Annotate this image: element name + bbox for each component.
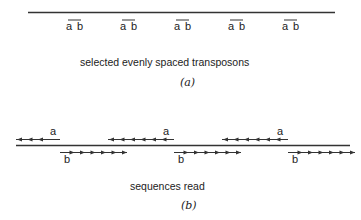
- arrow-right-icon: [236, 151, 241, 155]
- arrow-left-icon: [17, 138, 22, 142]
- transposon-end-a: a: [174, 20, 181, 32]
- arrow-left-icon: [276, 138, 281, 142]
- arrow-right-icon: [122, 151, 127, 155]
- read-b: b: [174, 151, 241, 166]
- read-label: a: [163, 125, 170, 137]
- arrow-left-icon: [120, 138, 125, 142]
- transposon-end-a: a: [228, 20, 235, 32]
- transposon-end-b: b: [77, 20, 83, 32]
- diagram-canvas: ababababab selected evenly spaced transp…: [0, 0, 361, 220]
- transposon-end-a: a: [120, 20, 127, 32]
- arrow-left-icon: [38, 138, 43, 142]
- read-label: b: [178, 153, 184, 165]
- arrow-right-icon: [70, 151, 75, 155]
- transposon-end-b: b: [131, 20, 137, 32]
- panel-label-b: (b): [181, 199, 197, 212]
- arrow-left-icon: [223, 138, 228, 142]
- transposon-end-b: b: [185, 20, 191, 32]
- read-b: b: [60, 151, 127, 166]
- read-a: a: [16, 125, 60, 142]
- panel-label-a: (a): [180, 76, 195, 89]
- arrow-left-icon: [28, 138, 33, 142]
- transposon-label: ab: [174, 20, 191, 32]
- transposon-label: ab: [66, 20, 83, 32]
- arrow-left-icon: [265, 138, 270, 142]
- arrow-right-icon: [350, 151, 355, 155]
- arrow-left-icon: [109, 138, 114, 142]
- transposon-end-a: a: [66, 20, 73, 32]
- read-label: a: [277, 125, 284, 137]
- panel-a: ababababab selected evenly spaced transp…: [28, 13, 335, 90]
- read-a: a: [222, 125, 288, 142]
- arrow-right-icon: [194, 151, 199, 155]
- transposon-end-a: a: [282, 20, 289, 32]
- panel-b: ababab sequences read (b): [16, 125, 355, 212]
- transposon-end-b: b: [239, 20, 245, 32]
- arrow-right-icon: [319, 151, 324, 155]
- transposon-label: ab: [282, 20, 299, 32]
- read-b: b: [288, 151, 355, 166]
- transposon-label: ab: [120, 20, 137, 32]
- arrow-left-icon: [234, 138, 239, 142]
- read-label: a: [50, 125, 57, 137]
- arrow-right-icon: [205, 151, 210, 155]
- arrow-right-icon: [80, 151, 85, 155]
- arrow-left-icon: [151, 138, 156, 142]
- arrow-right-icon: [226, 151, 231, 155]
- arrow-left-icon: [255, 138, 260, 142]
- arrow-right-icon: [340, 151, 345, 155]
- read-label: b: [292, 153, 298, 165]
- read-label: b: [64, 153, 70, 165]
- transposon-label: ab: [228, 20, 245, 32]
- caption-a: selected evenly spaced transposons: [80, 56, 249, 68]
- arrow-right-icon: [215, 151, 220, 155]
- arrow-right-icon: [184, 151, 189, 155]
- arrow-right-icon: [101, 151, 106, 155]
- caption-b: sequences read: [130, 180, 205, 192]
- arrow-left-icon: [244, 138, 249, 142]
- arrow-right-icon: [112, 151, 117, 155]
- transposon-end-b: b: [293, 20, 299, 32]
- arrow-right-icon: [91, 151, 96, 155]
- read-a: a: [108, 125, 174, 142]
- arrow-left-icon: [141, 138, 146, 142]
- arrow-left-icon: [162, 138, 167, 142]
- arrow-right-icon: [329, 151, 334, 155]
- arrow-right-icon: [298, 151, 303, 155]
- arrow-left-icon: [130, 138, 135, 142]
- arrow-right-icon: [308, 151, 313, 155]
